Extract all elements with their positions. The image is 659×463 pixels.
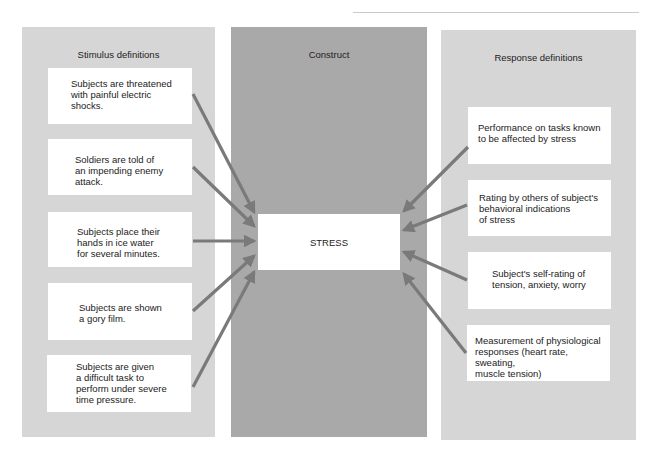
stimulus-box: Subjects place their hands in ice water … — [48, 212, 192, 267]
stress-construct-box: STRESS — [258, 214, 400, 270]
stimulus-box: Soldiers are told of an impending enemy … — [48, 139, 192, 195]
stimulus-text: Subjects are shown a gory film. — [79, 302, 192, 324]
stimulus-text: Subjects are threatened with painful ele… — [71, 78, 192, 111]
stimulus-box: Subjects are shown a gory film. — [48, 283, 192, 340]
response-box: Subject's self-rating of tension, anxiet… — [468, 252, 611, 309]
response-box: Performance on tasks known to be affecte… — [468, 107, 611, 164]
top-rule — [353, 12, 639, 13]
response-text: Rating by others of subject's behavioral… — [479, 192, 611, 225]
response-text: Subject's self-rating of tension, anxiet… — [492, 268, 611, 290]
stimulus-box: Subjects are threatened with painful ele… — [48, 68, 192, 124]
stimulus-box: Subjects are given a difficult task to p… — [47, 355, 191, 412]
stimulus-title: Stimulus definitions — [22, 49, 215, 60]
stimulus-text: Subjects place their hands in ice water … — [77, 226, 192, 259]
response-text: Measurement of physiological responses (… — [475, 335, 610, 379]
stimulus-text: Soldiers are told of an impending enemy … — [75, 154, 192, 187]
response-text: Performance on tasks known to be affecte… — [478, 122, 611, 144]
response-title: Response definitions — [441, 52, 636, 63]
response-box: Rating by others of subject's behavioral… — [468, 180, 611, 236]
stress-label: STRESS — [310, 237, 348, 248]
construct-title: Construct — [231, 49, 427, 60]
response-box: Measurement of physiological responses (… — [467, 325, 610, 381]
stimulus-text: Subjects are given a difficult task to p… — [76, 361, 191, 405]
